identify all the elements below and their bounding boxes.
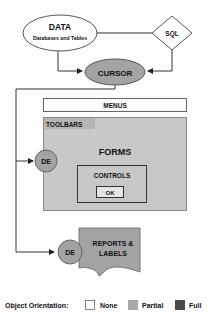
forms-label: FORMS: [99, 147, 132, 157]
legend-label-none: None: [100, 302, 118, 309]
menus-label: MENUS: [103, 102, 127, 109]
legend-label-full: Full: [189, 302, 201, 309]
menus-node: MENUS: [44, 99, 187, 112]
data-subtitle: Databases and Tables: [33, 35, 87, 41]
legend-label-partial: Partial: [142, 302, 163, 309]
data-title: DATA: [49, 22, 71, 32]
legend-title: Object Orientation:: [5, 302, 68, 310]
reports-line1: REPORTS &: [93, 240, 134, 247]
data-node: DATA Databases and Tables: [23, 15, 97, 51]
legend-swatch-full: [175, 300, 185, 310]
ok-label: OK: [106, 190, 116, 196]
forms-data-environment: DE: [35, 150, 57, 172]
legend: Object Orientation: None Partial Full: [5, 300, 201, 310]
toolbars-label: TOOLBARS: [46, 121, 83, 128]
sql-cursor-arrow: [148, 50, 172, 71]
cursor-label: CURSOR: [98, 69, 133, 78]
sql-node: SQL: [152, 16, 192, 50]
sql-label: SQL: [165, 30, 178, 38]
legend-swatch-none: [86, 301, 95, 310]
reports-line2: LABELS: [99, 250, 127, 257]
diagram-canvas: DATA Databases and Tables SQL CURSOR MEN…: [0, 0, 221, 325]
data-cursor-arrow: [58, 50, 82, 71]
reports-node: REPORTS & LABELS: [79, 228, 140, 276]
legend-swatch-partial: [128, 300, 138, 310]
cursor-node: CURSOR: [85, 59, 145, 85]
controls-label: CONTROLS: [94, 172, 131, 179]
reports-de-label: DE: [65, 249, 75, 256]
reports-data-environment: DE: [58, 240, 82, 264]
forms-de-label: DE: [41, 158, 51, 165]
